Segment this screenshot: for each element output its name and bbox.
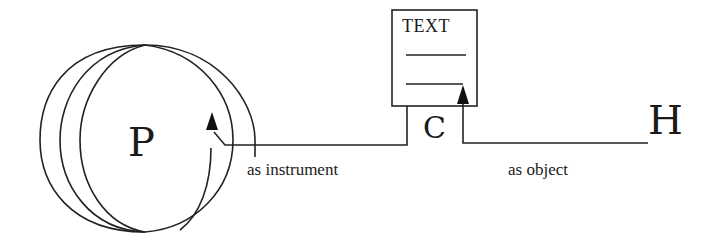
instrument-connector [214,106,407,145]
edge-instrument-label: as instrument [247,160,338,180]
p-inner-arc [180,148,211,230]
p-outer-right-arc [145,45,255,157]
node-c-label: C [423,113,446,143]
p-inner-circle [80,45,233,232]
instrument-arrowhead-icon [206,112,218,130]
node-h-label: H [648,100,683,140]
diagram-canvas [0,0,717,251]
edge-object-label: as object [508,160,568,180]
object-connector [463,100,648,143]
text-box-title: TEXT [402,16,450,36]
node-p-label: P [128,122,155,162]
object-arrowhead-icon [457,85,469,104]
p-lower-right-arc [145,160,255,232]
